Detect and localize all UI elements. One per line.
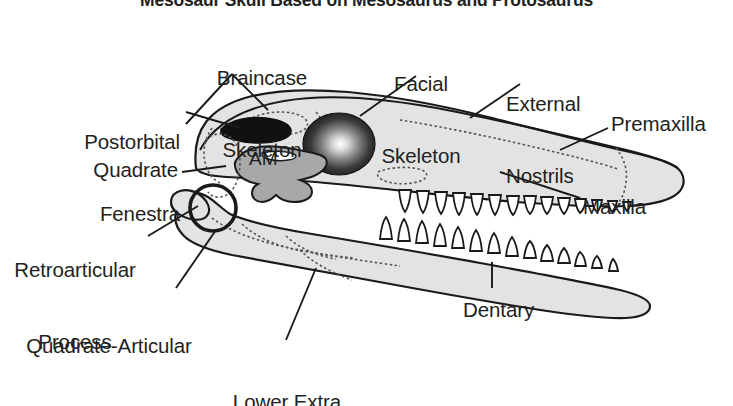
label-nostrils-line2: Nostrils xyxy=(506,164,636,188)
label-dentary: Dentary xyxy=(463,298,534,322)
label-quadrate-articular-jaw-joint: Quadrate-Articular Jaw Joint xyxy=(0,286,218,406)
mesosaur-skull-figure: Mesosaur Skull Based on Mesosaurus and P… xyxy=(0,0,733,406)
label-lower-line1: Lower Extra xyxy=(206,390,368,406)
label-maxilla: Maxilla xyxy=(583,195,646,219)
label-facial-skeleton: Facial Skeleton xyxy=(366,24,476,216)
leader-lower-extra-jaw-joint xyxy=(286,268,316,340)
label-premaxilla: Premaxilla xyxy=(611,112,706,136)
label-lower-extra-jaw-joint: Lower Extra Jaw Joint xyxy=(206,342,368,406)
label-postorbital-line1: Postorbital xyxy=(2,130,180,154)
label-facial-line1: Facial xyxy=(366,72,476,96)
label-quadrate: Quadrate xyxy=(2,158,178,182)
label-retro-line1: Retroarticular xyxy=(2,258,148,282)
label-qajoint-line1: Quadrate-Articular xyxy=(0,334,218,358)
label-facial-line2: Skeleton xyxy=(366,144,476,168)
adductor-muscle-abbreviation: AM xyxy=(249,148,278,170)
label-braincase-skeleton: Braincase Skeleton xyxy=(196,18,328,210)
label-braincase-line1: Braincase xyxy=(196,66,328,90)
